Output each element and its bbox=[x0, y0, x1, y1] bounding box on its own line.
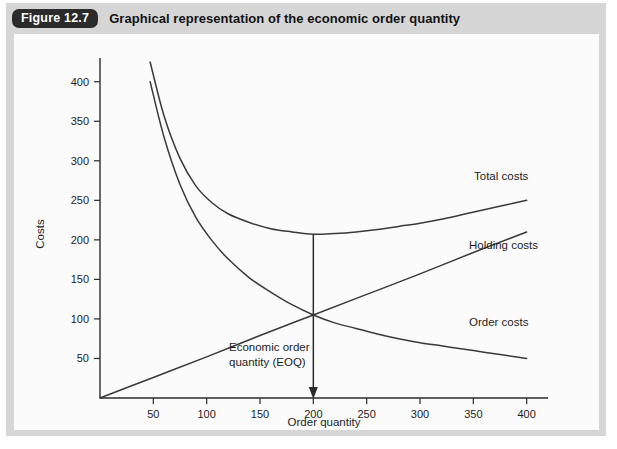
x-tick-label: 400 bbox=[517, 408, 535, 420]
eoq-chart: 50100150200250300350400 5010015020025030… bbox=[14, 34, 599, 430]
figure-root: Figure 12.7 Graphical representation of … bbox=[0, 0, 617, 449]
figure-number-badge: Figure 12.7 bbox=[12, 9, 98, 29]
x-tick-label: 50 bbox=[147, 408, 159, 420]
y-tick-label: 350 bbox=[71, 115, 89, 127]
y-axis-title: Costs bbox=[34, 219, 46, 249]
y-tick-label: 300 bbox=[71, 155, 89, 167]
eoq-label-line1: Economic order bbox=[229, 341, 310, 353]
eoq-arrow-head bbox=[309, 387, 318, 399]
series-label-order-costs: Order costs bbox=[469, 316, 529, 328]
figure-caption-bar: Figure 12.7 Graphical representation of … bbox=[6, 5, 606, 32]
series-curve-total-costs bbox=[150, 62, 527, 234]
series-label-holding-costs: Holding costs bbox=[469, 239, 538, 251]
y-axis-ticks: 50100150200250300350400 bbox=[71, 76, 100, 365]
x-tick-label: 150 bbox=[251, 408, 269, 420]
y-tick-label: 150 bbox=[71, 273, 89, 285]
eoq-label-line2: quantity (EOQ) bbox=[229, 356, 306, 368]
y-tick-label: 100 bbox=[71, 313, 89, 325]
figure-title: Graphical representation of the economic… bbox=[109, 11, 460, 26]
y-tick-label: 250 bbox=[71, 194, 89, 206]
x-tick-label: 350 bbox=[464, 408, 482, 420]
x-axis-title: Order quantity bbox=[288, 416, 361, 428]
plot-panel: 50100150200250300350400 5010015020025030… bbox=[14, 34, 599, 430]
x-tick-label: 300 bbox=[411, 408, 429, 420]
y-tick-label: 400 bbox=[71, 76, 89, 88]
y-tick-label: 50 bbox=[77, 352, 89, 364]
x-tick-label: 100 bbox=[197, 408, 215, 420]
y-tick-label: 200 bbox=[71, 234, 89, 246]
series-label-total-costs: Total costs bbox=[474, 170, 529, 182]
